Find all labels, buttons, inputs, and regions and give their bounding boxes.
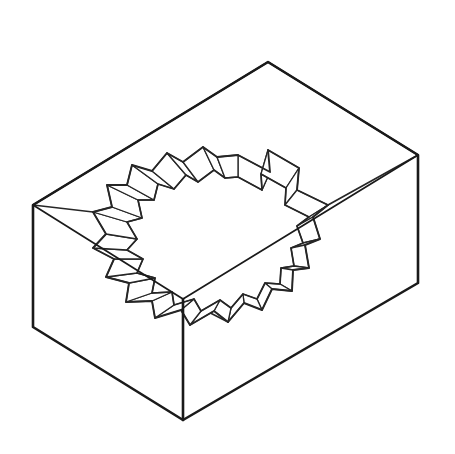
figure-root — [0, 0, 455, 454]
isometric-block-drawing — [0, 0, 455, 454]
